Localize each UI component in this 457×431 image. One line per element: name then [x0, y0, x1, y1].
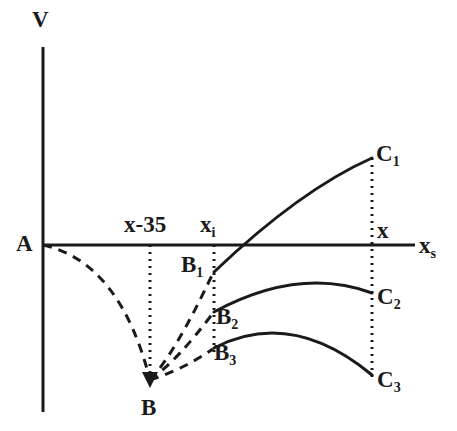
curve-B3-to-C3	[214, 333, 372, 375]
curve-A-to-B	[43, 245, 150, 380]
axis-label-xs: xs	[419, 234, 436, 257]
curve-B-to-B1	[150, 273, 213, 380]
point-label-b3: B3	[214, 341, 236, 364]
tick-label-x-i-sub: i	[212, 225, 216, 240]
point-label-b2-text: B	[216, 304, 231, 329]
point-label-b3-sub: 3	[229, 353, 236, 368]
point-label-c3: C3	[377, 368, 401, 391]
axis-label-v: V	[32, 8, 49, 31]
tick-label-x-i: xi	[200, 213, 215, 236]
point-label-c3-text: C	[377, 367, 394, 392]
point-label-c2-sub: 2	[394, 297, 401, 312]
point-label-c3-sub: 3	[394, 380, 401, 395]
tick-label-x-minus-35: x-35	[124, 213, 166, 236]
point-label-b: B	[141, 396, 156, 419]
point-label-a: A	[16, 232, 33, 255]
point-label-c1: C1	[376, 142, 400, 165]
point-label-b2-sub: 2	[231, 317, 238, 332]
tick-label-x: x	[377, 219, 389, 242]
point-label-c1-text: C	[376, 141, 393, 166]
point-label-c2: C2	[377, 285, 401, 308]
point-label-b2: B2	[216, 305, 238, 328]
curve-B1-to-C1	[214, 158, 372, 272]
tick-label-x-i-text: x	[200, 212, 212, 237]
diagram-canvas: V xs x-35 xi x A B B1 B2 B3 C1 C2 C3	[0, 0, 457, 431]
point-label-b1: B1	[181, 253, 203, 276]
curve-B-to-B2	[150, 313, 213, 380]
axis-label-xs-sub: s	[431, 246, 436, 261]
point-label-b3-text: B	[214, 340, 229, 365]
point-label-b1-text: B	[181, 252, 196, 277]
curve-B-to-B3	[150, 349, 213, 380]
point-label-c1-sub: 1	[393, 154, 400, 169]
solid-curves-group	[214, 158, 372, 375]
point-label-b1-sub: 1	[196, 265, 203, 280]
arrowhead-at-B	[142, 372, 158, 388]
point-label-c2-text: C	[377, 284, 394, 309]
axis-label-xs-text: x	[419, 233, 431, 258]
